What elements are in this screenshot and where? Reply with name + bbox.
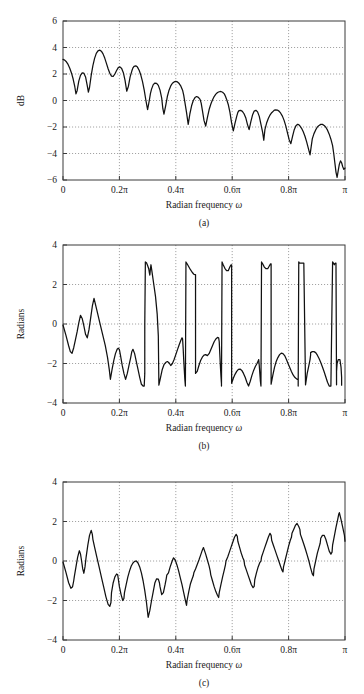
y-axis-title: dB	[16, 95, 26, 106]
chart-panel-b: −4−202400.2π0.4π0.6π0.8ππRadiansRadian f…	[0, 232, 364, 464]
x-tick-label: 0.8π	[280, 185, 297, 195]
gridlines	[63, 21, 345, 180]
x-tick-label: 0.8π	[280, 408, 297, 418]
x-tick-label: 0	[61, 185, 66, 195]
x-tick-label: π	[343, 645, 348, 655]
data-curve	[63, 513, 345, 618]
y-axis-title: Radians	[16, 308, 26, 339]
panel-caption: (b)	[198, 441, 209, 452]
y-tick-label: 6	[52, 16, 57, 26]
chart-panel-c: −4−202400.2π0.4π0.6π0.8ππRadiansRadian f…	[0, 464, 364, 694]
x-axis: 00.2π0.4π0.6π0.8ππ	[61, 176, 348, 195]
y-tick-label: 2	[52, 280, 57, 290]
y-tick-label: −4	[47, 398, 57, 408]
x-tick-label: 0.2π	[111, 645, 128, 655]
x-tick-label: 0.2π	[111, 185, 128, 195]
x-axis: 00.2π0.4π0.6π0.8ππ	[61, 636, 348, 655]
x-axis-title: Radian frequency ω	[166, 200, 243, 210]
x-axis-title: Radian frequency ω	[166, 660, 243, 670]
gridlines	[63, 245, 345, 403]
panel-caption: (a)	[199, 218, 210, 229]
data-curve	[63, 262, 342, 386]
x-tick-label: 0	[61, 408, 66, 418]
gridlines	[63, 482, 345, 640]
x-tick-label: 0.2π	[111, 408, 128, 418]
x-tick-label: 0.4π	[167, 408, 184, 418]
y-tick-label: 0	[52, 96, 57, 106]
y-tick-label: −4	[47, 149, 57, 159]
y-tick-label: −6	[47, 175, 57, 185]
y-tick-label: 2	[52, 517, 57, 527]
y-tick-label: 0	[52, 319, 57, 329]
x-tick-label: 0.8π	[280, 645, 297, 655]
panel-caption: (c)	[199, 678, 210, 689]
y-tick-label: 2	[52, 69, 57, 79]
x-tick-label: π	[343, 408, 348, 418]
y-tick-label: 4	[52, 240, 57, 250]
figure-container: −6−4−2024600.2π0.4π0.6π0.8ππdBRadian fre…	[0, 0, 364, 694]
x-tick-label: 0.6π	[224, 185, 241, 195]
plot-svg: −4−202400.2π0.4π0.6π0.8ππRadiansRadian f…	[0, 464, 364, 694]
y-axis-title: Radians	[16, 545, 26, 576]
data-curve	[63, 50, 345, 177]
y-tick-label: −4	[47, 635, 57, 645]
plot-svg: −4−202400.2π0.4π0.6π0.8ππRadiansRadian f…	[0, 232, 364, 464]
plot-svg: −6−4−2024600.2π0.4π0.6π0.8ππdBRadian fre…	[0, 0, 364, 232]
chart-panel-a: −6−4−2024600.2π0.4π0.6π0.8ππdBRadian fre…	[0, 0, 364, 232]
x-tick-label: 0.4π	[167, 645, 184, 655]
x-axis-title: Radian frequency ω	[166, 423, 243, 433]
x-tick-label: 0.6π	[224, 408, 241, 418]
y-axis: −4−2024	[47, 240, 67, 408]
x-tick-label: 0.6π	[224, 645, 241, 655]
x-tick-label: 0	[61, 645, 66, 655]
y-tick-label: −2	[47, 122, 57, 132]
y-tick-label: −2	[47, 596, 57, 606]
y-tick-label: 4	[52, 477, 57, 487]
x-tick-label: 0.4π	[167, 185, 184, 195]
x-tick-label: π	[343, 185, 348, 195]
y-axis: −6−4−20246	[47, 16, 67, 185]
y-tick-label: −2	[47, 359, 57, 369]
y-tick-label: 0	[52, 556, 57, 566]
x-axis: 00.2π0.4π0.6π0.8ππ	[61, 399, 348, 418]
y-tick-label: 4	[52, 43, 57, 53]
y-axis: −4−2024	[47, 477, 67, 645]
